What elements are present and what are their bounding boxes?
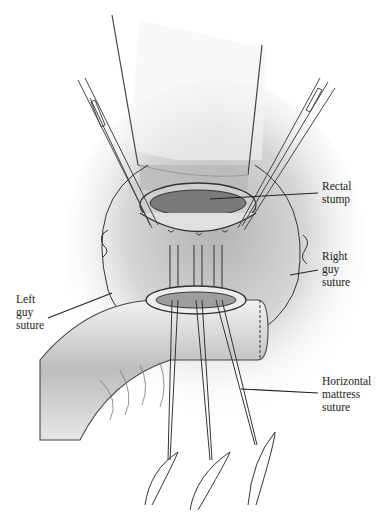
label-right-guy-suture: Right guy suture xyxy=(322,250,350,289)
label-rectal-stump: Rectal stump xyxy=(322,180,351,206)
label-left-guy-suture: Left guy suture xyxy=(16,293,44,332)
label-horizontal-mattress-suture: Horizontal mattress suture xyxy=(322,375,371,414)
